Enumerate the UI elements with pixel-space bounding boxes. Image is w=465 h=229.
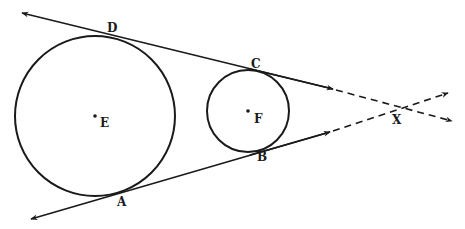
- tangent-line-dc-arrow: [250, 69, 333, 89]
- label-f: F: [254, 112, 263, 126]
- geometry-diagram: D C E F B A X: [0, 0, 465, 229]
- center-point-e: [93, 114, 97, 118]
- label-x: X: [392, 113, 402, 127]
- label-b: B: [257, 150, 267, 164]
- label-a: A: [116, 195, 127, 209]
- label-c: C: [251, 57, 261, 71]
- label-d: D: [107, 21, 117, 35]
- tangent-line-ab-extension: [333, 93, 448, 131]
- center-point-f: [246, 109, 250, 113]
- label-e: E: [100, 116, 109, 130]
